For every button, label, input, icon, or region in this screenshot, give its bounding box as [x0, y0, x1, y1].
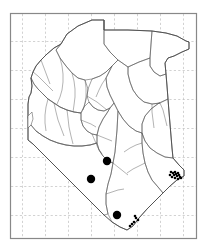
- occurrence-point-small-13: [169, 174, 172, 177]
- occurrence-point-large-1: [87, 175, 95, 183]
- occurrence-point-small-17: [131, 223, 134, 226]
- occurrence-point-small-12: [171, 176, 174, 179]
- occurrence-point-large-0: [103, 157, 111, 165]
- kenya-distribution-map: [0, 0, 205, 248]
- occurrence-point-small-9: [180, 177, 183, 180]
- occurrence-point-small-18: [129, 225, 132, 228]
- map-figure-page: [0, 0, 205, 248]
- map-svg: [0, 0, 205, 248]
- occurrence-point-small-11: [174, 177, 177, 180]
- occurrence-point-small-19: [134, 215, 137, 218]
- occurrence-point-large-2: [113, 211, 121, 219]
- occurrence-point-small-10: [177, 178, 180, 181]
- occurrence-point-small-15: [137, 219, 140, 222]
- occurrence-point-small-16: [133, 221, 136, 224]
